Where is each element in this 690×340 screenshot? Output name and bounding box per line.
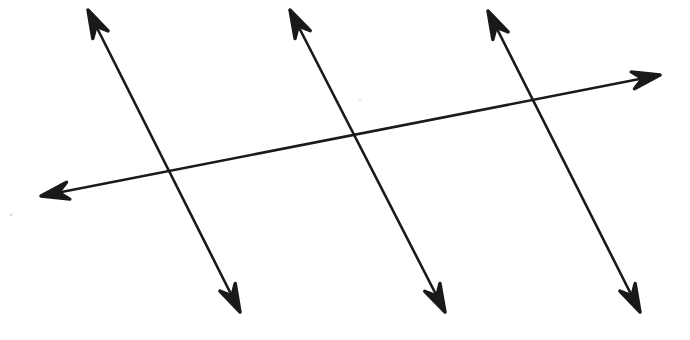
- parallel-line-3-segment: [488, 11, 640, 312]
- parallel-line-3: [488, 11, 640, 312]
- geometry-diagram: [0, 0, 690, 340]
- transversal-line: [41, 72, 660, 199]
- figure-canvas: [0, 0, 690, 340]
- speck-mid-icon: [359, 99, 361, 101]
- speck-left-icon: [9, 213, 12, 216]
- parallel-line-2-segment: [290, 10, 445, 312]
- parallel-line-2: [290, 10, 445, 312]
- transversal-line-segment: [41, 75, 660, 196]
